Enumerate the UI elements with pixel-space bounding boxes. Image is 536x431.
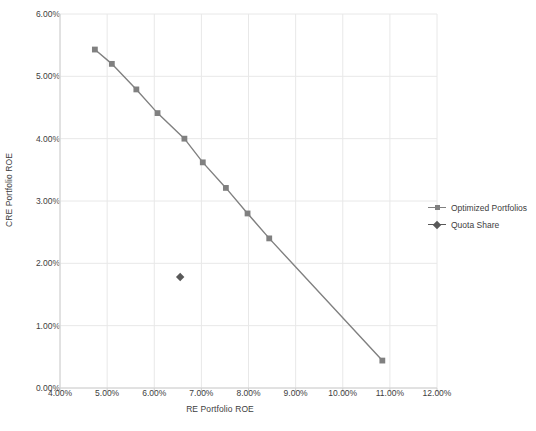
x-tick-label: 8.00% xyxy=(236,388,260,398)
x-tick-label: 6.00% xyxy=(142,388,166,398)
legend-item-quota-share[interactable]: Quota Share xyxy=(428,216,536,233)
data-point-marker[interactable] xyxy=(200,159,206,165)
x-tick-label: 5.00% xyxy=(95,388,119,398)
data-point-marker[interactable] xyxy=(155,110,161,116)
x-tick-label: 10.00% xyxy=(328,388,357,398)
legend-item-optimized-portfolios[interactable]: Optimized Portfolios xyxy=(428,199,536,216)
x-tick-label: 12.00% xyxy=(423,388,452,398)
data-point-marker[interactable] xyxy=(245,211,251,217)
x-tick-label: 11.00% xyxy=(376,388,404,398)
data-point-marker[interactable] xyxy=(176,273,184,281)
x-axis-title: RE Portfolio ROE xyxy=(0,404,440,414)
series-line xyxy=(95,50,382,361)
legend-label: Quota Share xyxy=(450,220,499,230)
data-point-marker[interactable] xyxy=(92,47,98,53)
data-point-marker[interactable] xyxy=(379,358,385,364)
legend-diamond-icon xyxy=(428,220,446,230)
x-tick-label: 7.00% xyxy=(189,388,213,398)
data-point-marker[interactable] xyxy=(223,185,229,191)
data-point-marker[interactable] xyxy=(182,136,188,142)
legend-label: Optimized Portfolios xyxy=(450,203,527,213)
x-tick-label: 4.00% xyxy=(48,388,72,398)
legend-marker xyxy=(433,220,441,228)
chart-container: CRE Portfolio ROE 0.00%1.00%2.00%3.00%4.… xyxy=(0,0,536,431)
data-point-marker[interactable] xyxy=(133,87,139,93)
legend-square-icon xyxy=(428,203,446,213)
legend-marker xyxy=(435,205,440,210)
data-point-marker[interactable] xyxy=(266,236,272,242)
x-tick-label: 9.00% xyxy=(284,388,308,398)
data-point-marker[interactable] xyxy=(109,61,115,67)
chart-legend: Optimized PortfoliosQuota Share xyxy=(428,199,536,233)
